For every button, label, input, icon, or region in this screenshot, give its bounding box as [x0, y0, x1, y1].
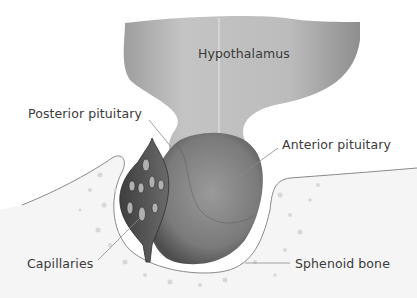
label-posterior-pituitary: Posterior pituitary — [28, 106, 142, 121]
label-anterior-pituitary: Anterior pituitary — [282, 137, 391, 152]
label-hypothalamus: Hypothalamus — [198, 46, 290, 61]
label-capillaries: Capillaries — [27, 256, 93, 271]
label-sphenoid-bone: Sphenoid bone — [295, 256, 390, 271]
